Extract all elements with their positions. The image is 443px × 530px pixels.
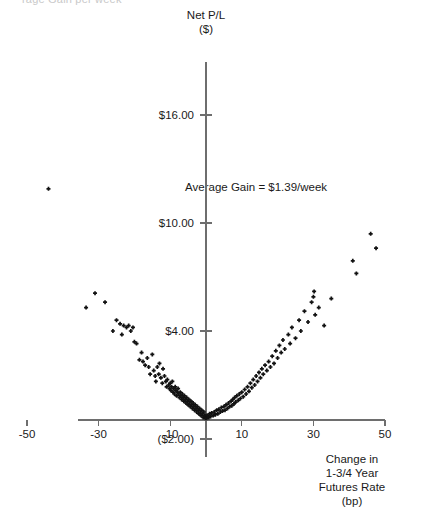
data-point — [351, 259, 355, 263]
data-point — [302, 309, 306, 313]
data-point — [247, 389, 251, 393]
data-point — [162, 374, 166, 378]
data-point — [369, 232, 373, 236]
data-point — [251, 378, 255, 382]
data-point — [313, 313, 317, 317]
data-point — [317, 306, 321, 310]
data-point — [150, 352, 154, 356]
data-point — [329, 297, 333, 301]
data-point — [93, 291, 97, 295]
data-point — [257, 370, 261, 374]
data-point — [281, 338, 285, 342]
data-point — [312, 289, 316, 293]
data-point — [111, 329, 115, 333]
data-point — [283, 347, 287, 351]
data-point — [272, 361, 276, 365]
data-point — [253, 383, 257, 387]
data-point — [246, 385, 250, 389]
data-point — [157, 372, 161, 376]
data-point — [152, 369, 156, 373]
data-point — [288, 342, 292, 346]
data-point — [115, 318, 119, 322]
scatter-chart: rage Gain per week Net P/L ($) Change in… — [0, 0, 443, 530]
data-point — [306, 320, 310, 324]
data-point — [277, 343, 281, 347]
data-point — [243, 388, 247, 392]
data-point — [265, 369, 269, 373]
data-point — [260, 367, 264, 371]
data-point — [46, 187, 50, 191]
data-point — [254, 374, 258, 378]
data-point — [299, 329, 303, 333]
data-point — [286, 333, 290, 337]
data-point — [374, 246, 378, 250]
data-point — [161, 367, 165, 371]
data-point-group — [46, 187, 378, 421]
data-point — [141, 360, 145, 364]
data-point — [276, 356, 280, 360]
data-point — [131, 325, 135, 329]
data-point — [261, 372, 265, 376]
data-point — [267, 360, 271, 364]
data-point — [290, 325, 294, 329]
data-point — [268, 365, 272, 369]
data-point — [155, 365, 159, 369]
data-point — [84, 306, 88, 310]
data-point — [154, 379, 158, 383]
data-point — [248, 381, 252, 385]
data-point — [120, 333, 124, 337]
data-point — [145, 356, 149, 360]
plot-area — [0, 0, 443, 530]
data-point — [270, 354, 274, 358]
data-point — [147, 365, 151, 369]
data-point — [354, 271, 358, 275]
data-point — [103, 300, 107, 304]
data-point — [279, 351, 283, 355]
data-point — [160, 381, 164, 385]
data-point — [311, 295, 315, 299]
data-point — [140, 351, 144, 355]
data-point — [250, 386, 254, 390]
data-point — [310, 300, 314, 304]
data-point — [118, 322, 122, 326]
data-point — [137, 358, 141, 362]
data-point — [256, 379, 260, 383]
data-point — [297, 318, 301, 322]
data-point — [143, 363, 147, 367]
data-point — [148, 372, 152, 376]
data-point — [274, 349, 278, 353]
data-point — [322, 324, 326, 328]
data-point — [157, 361, 161, 365]
data-point — [244, 392, 248, 396]
data-point — [263, 363, 267, 367]
data-point — [159, 376, 163, 380]
data-point — [258, 376, 262, 380]
data-point — [153, 374, 157, 378]
data-point — [129, 329, 133, 333]
data-point — [294, 336, 298, 340]
